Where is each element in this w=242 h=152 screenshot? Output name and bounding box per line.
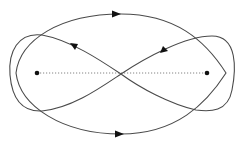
arrow-inner-downleft-icon (160, 46, 168, 53)
orbit-diagram (0, 0, 242, 152)
right-mass-point (205, 71, 210, 76)
arrow-bottom-right-icon (115, 131, 124, 138)
left-mass-point (35, 71, 40, 76)
arrow-top-right-icon (112, 11, 121, 18)
arrow-inner-upleft-icon (70, 43, 78, 50)
